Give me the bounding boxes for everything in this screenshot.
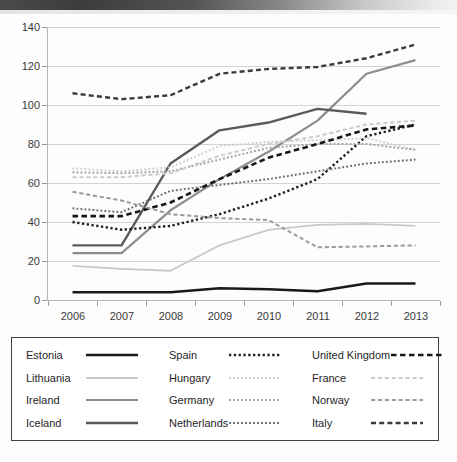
- legend-line-swatch: [228, 372, 282, 384]
- legend-item-italy[interactable]: Italy: [298, 412, 440, 435]
- x-axis-tick-label: 2012: [340, 310, 394, 322]
- x-tick-mark: [342, 301, 343, 306]
- legend-line-swatch: [370, 417, 424, 429]
- legend-item-netherlands[interactable]: Netherlands: [155, 412, 298, 435]
- legend-label: Iceland: [26, 417, 61, 429]
- x-tick-mark: [146, 301, 147, 306]
- legend-line-swatch: [390, 349, 444, 361]
- y-tick-mark: [42, 144, 47, 145]
- legend-item-spain[interactable]: Spain: [155, 344, 298, 367]
- y-axis-tick-label: 60: [0, 178, 40, 188]
- y-axis-tick-label: 40: [0, 217, 40, 227]
- scan-artifact-band: [0, 0, 457, 10]
- legend-label: Hungary: [169, 372, 211, 384]
- x-axis-tick-label: 2013: [389, 310, 443, 322]
- x-axis-tick-label: 2007: [95, 310, 149, 322]
- legend-label: France: [312, 372, 346, 384]
- legend-label: Lithuania: [26, 372, 71, 384]
- legend-line-swatch: [370, 372, 424, 384]
- legend-line-swatch: [85, 417, 139, 429]
- y-tick-mark: [42, 105, 47, 106]
- y-axis-tick-label: 120: [0, 61, 40, 71]
- legend-line-swatch: [370, 394, 424, 406]
- y-tick-mark: [42, 66, 47, 67]
- legend-item-estonia[interactable]: Estonia: [12, 344, 155, 367]
- legend-label: Italy: [312, 417, 332, 429]
- legend-line-swatch: [228, 394, 282, 406]
- y-axis-tick-label: 100: [0, 100, 40, 110]
- y-tick-mark: [42, 183, 47, 184]
- legend-label: Spain: [169, 349, 197, 361]
- legend-label: United Kingdom: [312, 349, 390, 361]
- y-axis-tick-label: 20: [0, 256, 40, 266]
- x-tick-mark: [195, 301, 196, 306]
- legend-item-united-kingdom[interactable]: United Kingdom: [298, 344, 440, 367]
- legend-item-france[interactable]: France: [298, 367, 440, 390]
- legend-label: Norway: [312, 394, 349, 406]
- chart-page: 020406080100120140 200620072008200920102…: [0, 0, 457, 462]
- legend-label: Estonia: [26, 349, 63, 361]
- legend-item-norway[interactable]: Norway: [298, 389, 440, 412]
- legend-line-swatch: [85, 349, 139, 361]
- y-tick-mark: [42, 261, 47, 262]
- x-axis-tick-label: 2010: [242, 310, 296, 322]
- x-axis-tick-label: 2008: [144, 310, 198, 322]
- legend-label: Netherlands: [169, 417, 228, 429]
- legend-grid: EstoniaSpainUnited KingdomLithuaniaHunga…: [12, 338, 438, 440]
- legend-line-swatch: [228, 417, 282, 429]
- x-axis-tick-label: 2011: [291, 310, 345, 322]
- x-tick-mark: [244, 301, 245, 306]
- series-line-lithuania: [73, 224, 416, 271]
- legend-label: Ireland: [26, 394, 60, 406]
- series-line-estonia: [73, 283, 416, 292]
- legend-line-swatch: [228, 349, 282, 361]
- legend-line-swatch: [85, 394, 139, 406]
- x-tick-mark: [97, 301, 98, 306]
- chart-legend: EstoniaSpainUnited KingdomLithuaniaHunga…: [11, 337, 439, 441]
- x-tick-mark: [440, 301, 441, 306]
- y-tick-mark: [42, 222, 47, 223]
- x-axis-tick-label: 2009: [193, 310, 247, 322]
- legend-item-ireland[interactable]: Ireland: [12, 389, 155, 412]
- y-tick-mark: [42, 300, 47, 301]
- x-tick-mark: [391, 301, 392, 306]
- legend-label: Germany: [169, 394, 214, 406]
- x-tick-mark: [293, 301, 294, 306]
- series-line-italy: [73, 45, 416, 100]
- y-axis-tick-label: 80: [0, 139, 40, 149]
- legend-item-iceland[interactable]: Iceland: [12, 412, 155, 435]
- x-tick-mark: [48, 301, 49, 306]
- x-axis-tick-label: 2006: [46, 310, 100, 322]
- line-chart: 020406080100120140 200620072008200920102…: [0, 14, 457, 330]
- y-axis-tick-label: 140: [0, 22, 40, 32]
- series-lines: [48, 27, 440, 300]
- legend-item-hungary[interactable]: Hungary: [155, 367, 298, 390]
- y-tick-mark: [42, 27, 47, 28]
- legend-line-swatch: [85, 372, 139, 384]
- legend-item-lithuania[interactable]: Lithuania: [12, 367, 155, 390]
- y-axis-tick-label: 0: [0, 295, 40, 305]
- legend-item-germany[interactable]: Germany: [155, 389, 298, 412]
